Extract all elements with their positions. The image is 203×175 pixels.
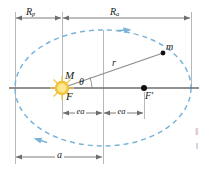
label-perihelion-distance: Rp <box>26 7 35 18</box>
edge-artifact-marks <box>196 128 199 149</box>
label-aphelion-distance: Ra <box>110 7 119 18</box>
label-orbiting-mass: m <box>166 42 173 52</box>
label-central-mass: M <box>65 70 74 81</box>
label-radius-vector: r <box>112 58 116 68</box>
orbiting-body-marker <box>161 51 166 56</box>
label-focus-right: F′ <box>145 91 153 101</box>
label-focus-left: F <box>66 91 73 102</box>
orbital-ellipse-figure: Rp Ra M F F′ m r θ ea ea a <box>0 0 203 175</box>
label-semi-major-axis: a <box>55 150 64 160</box>
label-focal-distance-left: ea <box>75 107 86 116</box>
label-true-anomaly: θ <box>79 77 84 87</box>
orbit-diagram-canvas <box>0 0 203 175</box>
label-focal-distance-right: ea <box>116 107 127 116</box>
true-anomaly-arc <box>90 78 92 88</box>
